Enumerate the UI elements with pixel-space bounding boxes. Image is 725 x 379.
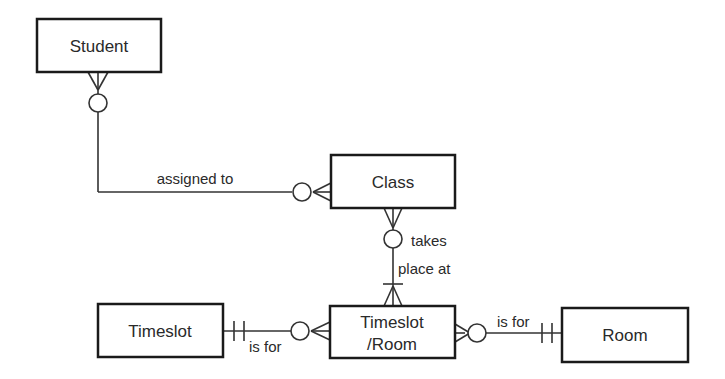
entity-student[interactable]: Student [37,19,161,72]
entity-label: Class [372,173,415,192]
entity-room[interactable]: Room [562,308,688,362]
relationship-label: is for [249,338,282,355]
relationship-label-line2: place at [398,260,451,277]
entity-timeslot-room[interactable]: Timeslot /Room [330,306,455,358]
er-diagram: Student Class Timeslot Timeslot /Room Ro… [0,0,725,379]
entity-label-line2: /Room [367,335,417,354]
entity-label-line1: Timeslot [360,313,424,332]
entity-label: Timeslot [128,322,192,341]
zero-optional-icon [293,183,311,201]
relationship-label-line1: takes [411,232,447,249]
entity-label: Student [70,37,129,56]
entity-class[interactable]: Class [331,155,455,208]
zero-optional-icon [384,230,402,248]
entity-timeslot[interactable]: Timeslot [98,304,223,357]
zero-optional-icon [89,94,107,112]
relationship-class-timeslot-room [383,208,403,306]
zero-optional-icon [291,322,309,340]
relationship-label: is for [497,313,530,330]
zero-optional-icon [468,324,486,342]
entity-label: Room [602,326,647,345]
relationship-label: assigned to [157,170,234,187]
